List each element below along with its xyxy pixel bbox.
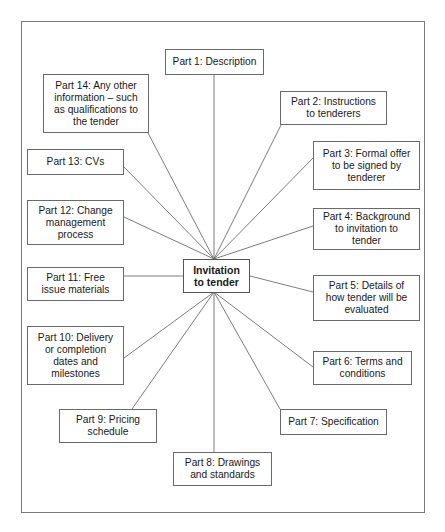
edge-part12	[124, 217, 214, 259]
node-text: tenderer	[323, 172, 411, 184]
node-text: milestones	[38, 368, 113, 380]
node-text: Part 3: Formal offer	[323, 148, 411, 160]
node-text: process	[38, 229, 112, 241]
node-text: or completion	[38, 344, 113, 356]
node-text: Part 11: Free	[42, 272, 110, 284]
node-text: the tender	[54, 116, 138, 128]
node-part11-free-issue: Part 11: Free issue materials	[27, 267, 124, 301]
node-text: Part 9: Pricing	[76, 414, 140, 426]
edge-part6	[214, 292, 313, 367]
node-text: evaluated	[326, 304, 408, 316]
node-text: information – such	[54, 92, 138, 104]
node-text: to tenderers	[291, 108, 376, 120]
edge-part9	[132, 292, 214, 409]
node-part3-formal-offer: Part 3: Formal offer to be signed by ten…	[313, 141, 420, 190]
node-part7-specification: Part 7: Specification	[280, 409, 387, 435]
node-text: Part 6: Terms and	[322, 356, 402, 368]
node-text: Part 10: Delivery	[38, 332, 113, 344]
node-text: to be signed by	[323, 160, 411, 172]
node-part12-change-management: Part 12: Change management process	[27, 200, 124, 245]
node-part2-instructions: Part 2: Instructions to tenderers	[280, 91, 387, 125]
node-text: and standards	[185, 469, 260, 481]
edge-part2	[214, 125, 281, 259]
node-part1-description: Part 1: Description	[165, 49, 264, 75]
center-node-invitation-to-tender: Invitation to tender	[183, 259, 250, 293]
node-text: Part 4: Background	[323, 211, 410, 223]
edge-part3	[214, 158, 313, 259]
node-text: schedule	[76, 426, 140, 438]
node-part8-drawings: Part 8: Drawings and standards	[173, 452, 272, 486]
edge-part14	[148, 133, 214, 259]
node-text: Part 14: Any other	[54, 80, 138, 92]
center-line-1: Invitation	[193, 264, 240, 277]
node-text: conditions	[322, 368, 402, 380]
edge-part7	[214, 292, 280, 409]
node-part9-pricing: Part 9: Pricing schedule	[59, 409, 157, 443]
node-part10-delivery: Part 10: Delivery or completion dates an…	[27, 326, 124, 385]
node-part6-terms: Part 6: Terms and conditions	[313, 351, 412, 385]
node-text: as qualifications to	[54, 104, 138, 116]
edge-part10	[124, 292, 214, 358]
node-text: Part 8: Drawings	[185, 457, 260, 469]
node-text: Part 12: Change	[38, 205, 112, 217]
node-part14-other-information: Part 14: Any other information – such as…	[43, 74, 149, 133]
node-part4-background: Part 4: Background to invitation to tend…	[313, 208, 420, 250]
node-text: how tender will be	[326, 292, 408, 304]
node-text: Part 13: CVs	[47, 156, 105, 168]
node-text: Part 7: Specification	[288, 416, 379, 428]
edge-part4	[214, 226, 313, 259]
node-text: Part 5: Details of	[326, 280, 408, 292]
node-text: dates and	[38, 356, 113, 368]
node-part13-cvs: Part 13: CVs	[27, 149, 124, 175]
node-part5-evaluation: Part 5: Details of how tender will be ev…	[313, 275, 420, 321]
center-line-2: to tender	[193, 276, 240, 289]
edge-part13	[124, 167, 214, 259]
node-text: issue materials	[42, 284, 110, 296]
node-text: to invitation to	[323, 223, 410, 235]
node-text: tender	[323, 235, 410, 247]
edge-part5	[250, 276, 313, 292]
node-text: Part 1: Description	[173, 56, 257, 68]
node-text: Part 2: Instructions	[291, 96, 376, 108]
node-text: management	[38, 217, 112, 229]
